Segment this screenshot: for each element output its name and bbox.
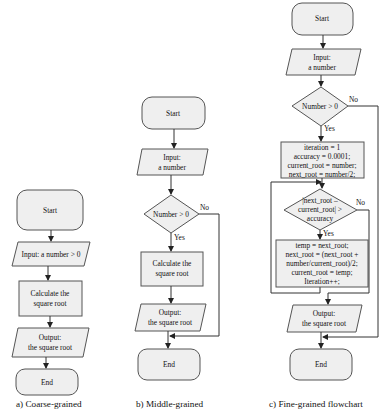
end-label: End (315, 360, 327, 369)
start-label: Start (43, 206, 58, 215)
process-label-1: Calculate the (153, 259, 193, 268)
decision-label: Number > 0 (153, 210, 189, 219)
output-label-1: Output: (159, 308, 182, 317)
output-label-2: the square root (148, 318, 193, 327)
end-label: End (41, 378, 53, 387)
output-label-1: Output: (39, 333, 62, 342)
decision-label: Number > 0 (302, 102, 338, 111)
input-label-2: a number (158, 163, 186, 172)
loop-decision-line: accuracy (307, 214, 334, 223)
flowchart-figure: Start Input: a number > 0 Calculate the … (0, 0, 390, 412)
init-line: next_root = number/2; (289, 170, 356, 179)
process-label-2: square root (155, 269, 189, 278)
yes-label: Yes (324, 124, 335, 133)
init-line: current_root = number; (287, 161, 356, 170)
body-line: temp = next_root; (295, 241, 348, 250)
body-line: number/current_root)/2; (286, 259, 357, 268)
input-label-1: Input: (163, 153, 181, 162)
init-line: accuracy = 0.0001; (294, 152, 351, 161)
init-line: iteration = 1 (304, 143, 340, 152)
loop-decision-line: current_root| > (298, 205, 342, 214)
caption-a: a) Coarse-grained (16, 399, 82, 409)
panel-fine-grained: Start Input: a number Number > 0 No Yes … (269, 3, 378, 409)
process-label-1: Calculate the (31, 289, 71, 298)
input-label-2: a number (308, 63, 336, 72)
loop-no-label: No (356, 198, 365, 207)
no-label: No (349, 95, 358, 104)
output-label-2: the square root (302, 319, 347, 328)
output-label-1: Output: (313, 309, 336, 318)
panel-middle-grained: Start Input: a number Number > 0 No Yes … (135, 97, 219, 409)
end-label: End (163, 360, 175, 369)
input-label-1: Input: (313, 53, 331, 62)
output-label-2: the square root (28, 343, 73, 352)
body-line: Iteration++; (304, 277, 339, 286)
body-line: current_root = temp; (291, 268, 352, 277)
start-label: Start (166, 109, 181, 118)
input-label: Input: a number > 0 (22, 250, 81, 259)
caption-b: b) Middle-grained (136, 399, 204, 409)
caption-c: c) Fine-grained flowchart (269, 399, 363, 409)
loop-yes-label: Yes (323, 229, 334, 238)
no-label: No (200, 203, 209, 212)
yes-label: Yes (174, 233, 185, 242)
process-label-2: square root (33, 299, 67, 308)
panel-coarse-grained: Start Input: a number > 0 Calculate the … (12, 190, 90, 409)
body-line: next_root = (next_root + (286, 250, 359, 259)
loop-decision-line: |next_root – (302, 196, 338, 205)
start-label: Start (315, 14, 330, 23)
